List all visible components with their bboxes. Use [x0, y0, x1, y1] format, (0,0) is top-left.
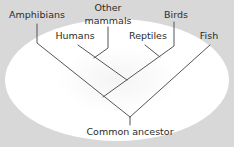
- leaf-label-birds: Birds: [164, 9, 188, 20]
- tree-canvas: Amphibians Other mammals Humans Reptiles…: [0, 0, 234, 147]
- leaf-label-amphibians: Amphibians: [9, 9, 65, 20]
- leaf-label-fish: Fish: [200, 30, 218, 41]
- leaf-label-reptiles: Reptiles: [129, 30, 167, 41]
- leaf-label-other-mammals-line2: mammals: [85, 15, 132, 26]
- leaf-label-other-mammals-line1: Other: [95, 2, 122, 13]
- root-label-common-ancestor: Common ancestor: [86, 126, 173, 137]
- leaf-label-humans: Humans: [55, 30, 94, 41]
- highlight-ellipse: [5, 19, 229, 141]
- phylogenetic-tree-diagram: Amphibians Other mammals Humans Reptiles…: [0, 0, 234, 147]
